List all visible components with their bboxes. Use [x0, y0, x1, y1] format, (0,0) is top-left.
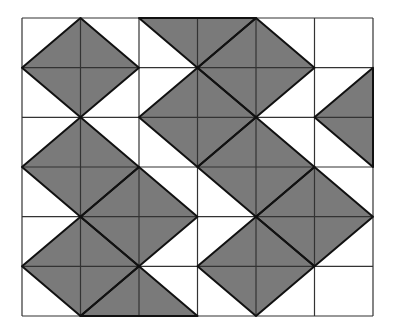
tessellation-diagram — [0, 0, 394, 336]
